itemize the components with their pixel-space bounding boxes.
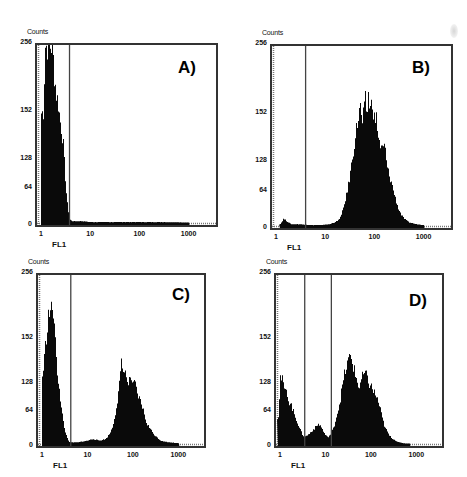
x-tick-label: 1 bbox=[27, 451, 57, 458]
x-axis-label: FL1 bbox=[291, 461, 305, 470]
x-axis-label: FL1 bbox=[287, 243, 301, 252]
x-tick-label: 100 bbox=[356, 451, 386, 458]
y-tick-label: 0 bbox=[245, 223, 267, 230]
y-tick-label: 256 bbox=[249, 268, 271, 275]
panel-letter-c: C) bbox=[172, 285, 190, 305]
x-tick-label: 10 bbox=[310, 451, 340, 458]
y-tick-label: 0 bbox=[11, 441, 33, 448]
y-tick-label: 0 bbox=[249, 441, 271, 448]
y-axis-label: Counts bbox=[262, 29, 283, 36]
y-tick-label: 152 bbox=[249, 333, 271, 340]
y-tick-label: 128 bbox=[245, 156, 267, 163]
x-tick-label: 1 bbox=[261, 233, 291, 240]
y-tick-label: 128 bbox=[10, 154, 32, 161]
x-axis-label: FL1 bbox=[52, 240, 66, 249]
x-tick-label: 1000 bbox=[163, 451, 193, 458]
panel-letter-d: D) bbox=[409, 291, 427, 311]
x-tick-label: 1000 bbox=[409, 233, 439, 240]
y-tick-label: 128 bbox=[11, 378, 33, 385]
x-tick-label: 1 bbox=[265, 451, 295, 458]
x-tick-label: 100 bbox=[359, 233, 389, 240]
y-tick-label: 64 bbox=[10, 183, 32, 190]
y-tick-label: 256 bbox=[11, 268, 33, 275]
y-tick-label: 256 bbox=[245, 39, 267, 46]
scan-artifact bbox=[450, 24, 458, 38]
y-axis-label: Counts bbox=[28, 258, 49, 265]
y-tick-label: 0 bbox=[10, 220, 32, 227]
y-tick-label: 256 bbox=[10, 38, 32, 45]
x-tick-label: 1000 bbox=[174, 230, 204, 237]
x-axis-label: FL1 bbox=[53, 461, 67, 470]
y-tick-label: 152 bbox=[10, 106, 32, 113]
x-tick-label: 10 bbox=[72, 451, 102, 458]
x-tick-label: 100 bbox=[124, 230, 154, 237]
panel-letter-a: A) bbox=[178, 58, 196, 78]
x-tick-label: 10 bbox=[310, 233, 340, 240]
y-tick-label: 152 bbox=[11, 333, 33, 340]
y-tick-label: 152 bbox=[245, 108, 267, 115]
y-axis-label: Counts bbox=[266, 258, 287, 265]
y-tick-label: 64 bbox=[249, 406, 271, 413]
y-tick-label: 64 bbox=[11, 406, 33, 413]
x-tick-label: 1000 bbox=[401, 451, 431, 458]
x-tick-label: 1 bbox=[26, 230, 56, 237]
y-tick-label: 128 bbox=[249, 378, 271, 385]
y-axis-label: Counts bbox=[27, 28, 48, 35]
y-tick-label: 64 bbox=[245, 186, 267, 193]
x-tick-label: 100 bbox=[118, 451, 148, 458]
panel-letter-b: B) bbox=[412, 58, 430, 78]
x-tick-label: 10 bbox=[75, 230, 105, 237]
